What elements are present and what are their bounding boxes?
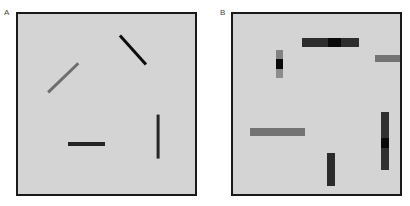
panel-label-b: B xyxy=(220,9,226,17)
segment-dark-horizontal xyxy=(68,142,105,145)
bar-right-gray-horizontal xyxy=(375,55,400,62)
figure-root: AB xyxy=(0,0,410,206)
bar-right-gray-horizontal-seg-0 xyxy=(375,55,400,62)
bar-small-vertical-banded-seg-2 xyxy=(276,69,283,78)
bar-bottom-vertical xyxy=(327,153,335,186)
bar-small-vertical-banded xyxy=(276,50,283,78)
bar-top-horizontal-banded xyxy=(302,38,359,47)
panel-label-a: A xyxy=(4,9,10,17)
bar-small-vertical-banded-seg-0 xyxy=(276,50,283,59)
panel-a xyxy=(16,12,197,196)
bar-top-horizontal-banded-seg-2 xyxy=(341,38,359,47)
bar-top-horizontal-banded-seg-0 xyxy=(302,38,328,47)
bar-small-vertical-banded-seg-1 xyxy=(276,59,283,69)
bar-tall-right-vertical-banded xyxy=(381,112,389,170)
bar-left-gray-horizontal-seg-0 xyxy=(250,128,305,136)
bar-top-horizontal-banded-seg-1 xyxy=(328,38,341,47)
bar-tall-right-vertical-banded-seg-1 xyxy=(381,138,389,148)
bar-left-gray-horizontal xyxy=(250,128,305,136)
bar-bottom-vertical-seg-0 xyxy=(327,153,335,186)
bar-tall-right-vertical-banded-seg-2 xyxy=(381,148,389,170)
bar-tall-right-vertical-banded-seg-0 xyxy=(381,112,389,138)
segment-dark-vertical xyxy=(156,115,159,159)
